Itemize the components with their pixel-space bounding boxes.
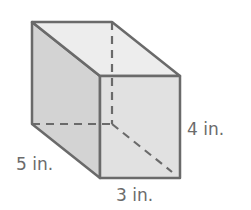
width-label: 3 in. [116,185,153,205]
length-label: 5 in. [16,154,53,174]
height-label: 4 in. [187,119,224,139]
front-face [100,76,180,178]
rectangular-prism-diagram: 4 in. 5 in. 3 in. [0,0,251,210]
